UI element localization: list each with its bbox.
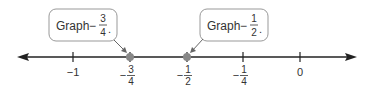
tick-label-neg-one-half: − 1 2 <box>177 64 192 87</box>
callout-graph-neg-one-half: Graph − 1 2 . <box>190 9 268 53</box>
svg-text:2: 2 <box>185 76 191 87</box>
svg-text:Graph: Graph <box>207 19 240 33</box>
number-line-diagram: −1 − 3 4 − 1 2 − 1 4 0 Graph − 3 4 . Gra… <box>0 0 368 91</box>
svg-text:.: . <box>259 23 262 35</box>
point-neg-one-half <box>183 53 191 61</box>
tick-label-neg-one-fourth: − 1 4 <box>233 64 248 87</box>
svg-text:Graph: Graph <box>56 19 89 33</box>
tick-label-neg-three-fourths: − 3 4 <box>120 64 135 87</box>
tick-label: −1 <box>67 66 80 78</box>
svg-text:−: − <box>120 69 126 81</box>
svg-text:3: 3 <box>128 64 134 75</box>
svg-text:1: 1 <box>241 64 247 75</box>
point-neg-three-fourths <box>126 53 134 61</box>
svg-text:−: − <box>89 19 96 33</box>
svg-text:4: 4 <box>100 27 106 38</box>
svg-text:−: − <box>177 69 183 81</box>
svg-text:−: − <box>240 19 247 33</box>
svg-text:2: 2 <box>251 27 257 38</box>
svg-text:1: 1 <box>185 64 191 75</box>
svg-text:3: 3 <box>100 13 106 24</box>
svg-text:.: . <box>108 23 111 35</box>
svg-text:4: 4 <box>241 76 247 87</box>
svg-text:−: − <box>233 69 239 81</box>
tick-label: 0 <box>297 66 303 78</box>
svg-text:4: 4 <box>128 76 134 87</box>
callout-graph-neg-three-fourths: Graph − 3 4 . <box>49 9 127 53</box>
svg-text:1: 1 <box>251 13 257 24</box>
